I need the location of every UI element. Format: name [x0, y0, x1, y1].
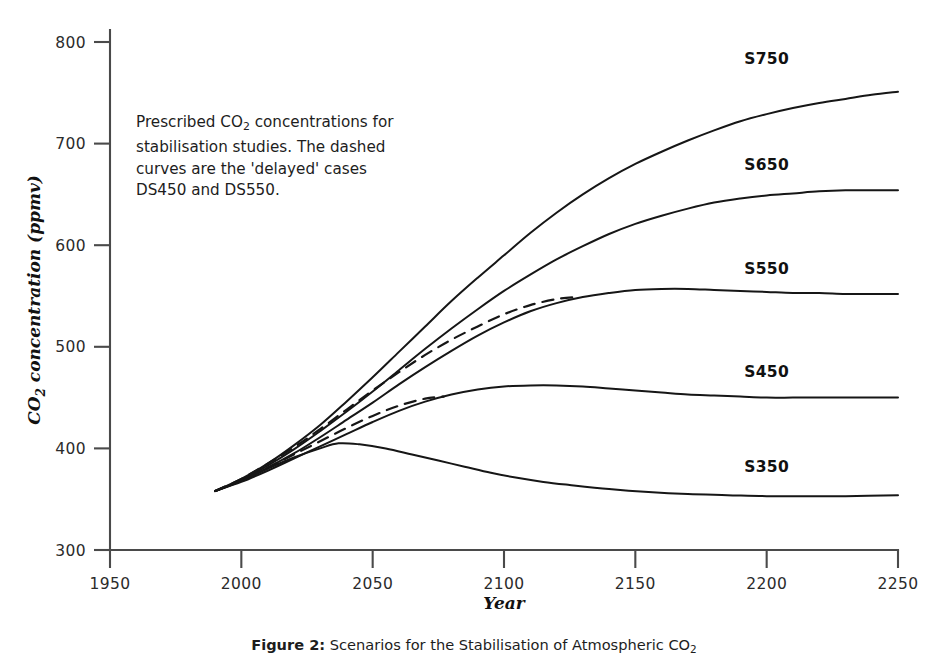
x-tick-label: 2250 — [877, 575, 918, 593]
x-tick-label: 2000 — [221, 575, 262, 593]
x-tick-label: 2050 — [352, 575, 393, 593]
y-axis-title: CO2 concentration (ppmv) — [24, 175, 48, 425]
y-tick-label: 400 — [55, 440, 86, 458]
series-label-s450: S450 — [744, 363, 789, 381]
series-label-s650: S650 — [744, 156, 789, 174]
note-line-2: stabilisation studies. The dashed — [136, 138, 385, 156]
note-line-1-pre: Prescribed CO — [136, 113, 243, 131]
x-tick-label: 1950 — [89, 575, 130, 593]
series-label-s350: S350 — [744, 458, 789, 476]
y-tick-label: 600 — [55, 237, 86, 255]
y-tick-label: 300 — [55, 542, 86, 560]
figure-root: 3004005006007008001950200020502100215022… — [0, 0, 948, 657]
x-tick-label: 2150 — [615, 575, 656, 593]
note-line-3: curves are the 'delayed' cases — [136, 160, 367, 178]
y-tick-label: 700 — [55, 135, 86, 153]
series-label-s750: S750 — [744, 50, 789, 68]
caption-rest: Scenarios for the Stabilisation of Atmos… — [325, 636, 690, 653]
series-label-s550: S550 — [744, 260, 789, 278]
series-curve-s350 — [215, 443, 898, 496]
co2-stabilisation-chart: 3004005006007008001950200020502100215022… — [0, 0, 948, 657]
caption-lead: Figure 2: — [251, 636, 325, 653]
series-curve-ds450 — [215, 397, 444, 491]
series-curve-s550 — [215, 289, 898, 491]
figure-caption: Figure 2: Scenarios for the Stabilisatio… — [0, 636, 948, 655]
note-subscript: 2 — [243, 120, 250, 133]
series-curve-s650 — [215, 190, 898, 491]
x-tick-label: 2200 — [746, 575, 787, 593]
caption-subscript: 2 — [690, 643, 697, 655]
note-line-4: DS450 and DS550. — [136, 181, 280, 199]
y-tick-label: 800 — [55, 34, 86, 52]
y-tick-label: 500 — [55, 338, 86, 356]
chart-annotation-note: Prescribed CO2 concentrations for stabil… — [136, 112, 436, 202]
x-axis-title: Year — [483, 593, 525, 613]
note-line-1-post: concentrations for — [250, 113, 394, 131]
series-curve-ds550 — [215, 297, 577, 491]
x-tick-label: 2100 — [483, 575, 524, 593]
